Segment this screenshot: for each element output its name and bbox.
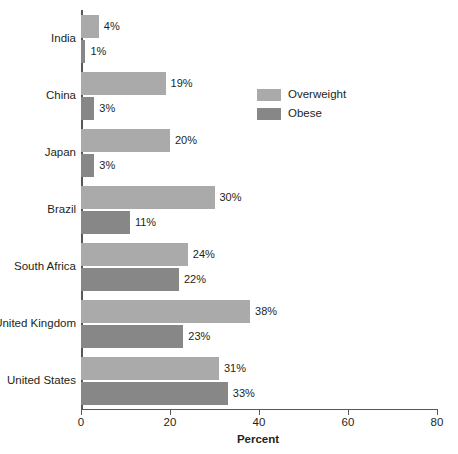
x-axis-tick	[259, 409, 260, 415]
bar-row: 31%	[81, 357, 437, 380]
bar-value-label: 20%	[175, 135, 197, 146]
bar-value-label: 4%	[104, 21, 120, 32]
bar-value-label: 33%	[233, 388, 255, 399]
bar-row: 24%	[81, 243, 437, 266]
x-axis-tick-label: 40	[253, 417, 266, 429]
bar-obese[interactable]	[81, 268, 179, 291]
chart-legend: Overweight Obese	[257, 88, 346, 126]
bar-value-label: 31%	[224, 363, 246, 374]
bar-chart: IndiaChinaJapanBrazilSouth AfricaUnited …	[0, 0, 458, 454]
category-label: Brazil	[47, 204, 76, 216]
bar-row: 22%	[81, 268, 437, 291]
bar-overweight[interactable]	[81, 300, 250, 323]
bar-obese[interactable]	[81, 382, 228, 405]
bar-value-label: 30%	[220, 192, 242, 203]
bar-row: 4%	[81, 15, 437, 38]
bar-row: 38%	[81, 300, 437, 323]
bar-value-label: 3%	[99, 103, 115, 114]
bar-overweight[interactable]	[81, 186, 215, 209]
bar-obese[interactable]	[81, 154, 94, 177]
legend-label-overweight: Overweight	[288, 89, 346, 101]
bar-group: 4%1%	[81, 10, 437, 67]
bar-obese[interactable]	[81, 211, 130, 234]
legend-swatch-obese	[257, 108, 281, 120]
category-label: United Kingdom	[0, 318, 76, 330]
bar-group: 24%22%	[81, 238, 437, 295]
bar-value-label: 22%	[184, 274, 206, 285]
bar-overweight[interactable]	[81, 15, 99, 38]
bar-row: 33%	[81, 382, 437, 405]
bar-obese[interactable]	[81, 97, 94, 120]
legend-label-obese: Obese	[288, 108, 322, 120]
bar-row: 11%	[81, 211, 437, 234]
x-axis-title-text: Percent	[237, 433, 279, 445]
bar-overweight[interactable]	[81, 72, 166, 95]
bar-value-label: 3%	[99, 160, 115, 171]
bar-obese[interactable]	[81, 40, 85, 63]
bar-group: 20%3%	[81, 124, 437, 181]
bar-value-label: 24%	[193, 249, 215, 260]
bar-row: 20%	[81, 129, 437, 152]
x-axis-tick-label: 80	[431, 417, 444, 429]
bar-group: 38%23%	[81, 295, 437, 352]
x-axis-tick	[170, 409, 171, 415]
x-axis-title: Percent	[0, 433, 458, 445]
x-axis-tick-label: 20	[164, 417, 177, 429]
bar-row: 23%	[81, 325, 437, 348]
bar-value-label: 23%	[188, 331, 210, 342]
bar-obese[interactable]	[81, 325, 183, 348]
bar-value-label: 19%	[171, 78, 193, 89]
bar-value-label: 1%	[90, 46, 106, 57]
bar-overweight[interactable]	[81, 129, 170, 152]
category-label: China	[46, 90, 76, 102]
x-axis-tick	[348, 409, 349, 415]
bar-row: 30%	[81, 186, 437, 209]
legend-item-overweight[interactable]: Overweight	[257, 88, 346, 102]
category-label: United States	[7, 375, 76, 387]
bar-group: 31%33%	[81, 352, 437, 409]
bar-value-label: 38%	[255, 306, 277, 317]
x-axis-tick-label: 0	[78, 417, 84, 429]
bar-value-label: 11%	[135, 217, 156, 228]
bar-overweight[interactable]	[81, 357, 219, 380]
bar-overweight[interactable]	[81, 243, 188, 266]
bar-row: 1%	[81, 40, 437, 63]
x-axis-tick	[437, 409, 438, 415]
x-axis-tick-label: 60	[342, 417, 355, 429]
category-label: Japan	[45, 147, 76, 159]
bar-row: 3%	[81, 154, 437, 177]
category-label: India	[51, 33, 76, 45]
legend-item-obese[interactable]: Obese	[257, 107, 346, 121]
plot-area: 4%1%19%3%20%3%30%11%24%22%38%23%31%33%	[81, 10, 437, 409]
category-label: South Africa	[14, 261, 76, 273]
category-axis-labels: IndiaChinaJapanBrazilSouth AfricaUnited …	[0, 10, 76, 409]
bar-group: 30%11%	[81, 181, 437, 238]
x-axis-tick	[81, 409, 82, 415]
legend-swatch-overweight	[257, 89, 281, 101]
